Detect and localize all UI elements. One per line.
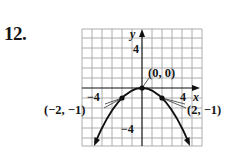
point-neg2-neg1 — [119, 95, 124, 100]
y-tick-neg-4: −4 — [121, 122, 134, 136]
parabola-graph: y x 4 −4 −4 4 (0, 0) (−2, −1) (2, −1) — [0, 0, 233, 158]
point-label-neg2-neg1: (−2, −1) — [44, 103, 85, 117]
point-label-2-neg1: (2, −1) — [187, 103, 221, 117]
point-label-origin: (0, 0) — [148, 66, 175, 80]
x-tick-4: 4 — [180, 90, 186, 104]
y-axis-arrow-icon — [139, 29, 145, 37]
y-tick-4: 4 — [133, 42, 139, 56]
point-origin — [139, 85, 144, 90]
point-2-neg1 — [159, 95, 164, 100]
x-axis-label: x — [192, 90, 199, 104]
x-tick-neg-4: −4 — [87, 90, 100, 104]
y-axis-label: y — [128, 27, 136, 41]
